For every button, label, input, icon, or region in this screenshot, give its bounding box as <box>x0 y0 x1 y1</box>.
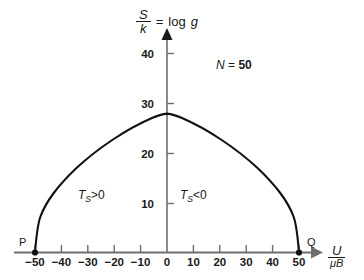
n-variable: N <box>216 58 225 72</box>
t-relation: <0 <box>193 188 207 202</box>
x-tick-label: −50 <box>25 256 45 268</box>
t-relation: >0 <box>91 188 105 202</box>
point-label-q: Q <box>307 236 316 248</box>
x-tick-label: −40 <box>52 256 72 268</box>
y-tick-label: 20 <box>141 148 154 160</box>
point-label-p: P <box>19 236 26 248</box>
endpoint-marker-p <box>32 249 38 255</box>
y-tick-label: 40 <box>141 48 154 60</box>
x-tick-label: −20 <box>104 256 124 268</box>
x-tick-label: 20 <box>213 256 226 268</box>
x-axis-arrowhead <box>311 247 323 259</box>
y-tick-label: 30 <box>141 98 154 110</box>
s-over-k-fraction: S k <box>136 8 151 36</box>
endpoint-marker-q <box>296 249 302 255</box>
x-tick-label: 40 <box>266 256 279 268</box>
u-over-mub-fraction: U μB <box>326 244 347 269</box>
y-tick-label: 10 <box>141 198 154 210</box>
y-axis-ticks <box>167 54 174 204</box>
fraction-denominator: μB <box>326 258 347 269</box>
y-axis-title: S k = log g <box>136 8 198 36</box>
negative-temperature-annotation: TS<0 <box>180 188 207 204</box>
x-axis-title: U μB <box>326 243 347 269</box>
y-tick-label-group: 10 20 30 40 <box>126 0 154 280</box>
x-tick-label: −10 <box>131 256 151 268</box>
x-tick-label: 30 <box>240 256 253 268</box>
equals-sign: = <box>156 14 164 29</box>
fraction-numerator: U <box>328 244 345 258</box>
fraction-denominator: k <box>137 22 150 35</box>
positive-temperature-annotation: TS>0 <box>78 188 105 204</box>
x-tick-label: 0 <box>164 256 170 268</box>
x-tick-label: 10 <box>187 256 200 268</box>
n-value-annotation: N = 50 <box>216 58 252 72</box>
x-tick-label: −30 <box>78 256 98 268</box>
g-variable: g <box>191 14 198 29</box>
fraction-numerator: S <box>136 8 151 22</box>
x-tick-label: 50 <box>293 256 306 268</box>
log-text: log <box>168 14 185 29</box>
n-equals-sign: = <box>228 58 235 72</box>
n-value: 50 <box>238 58 251 72</box>
